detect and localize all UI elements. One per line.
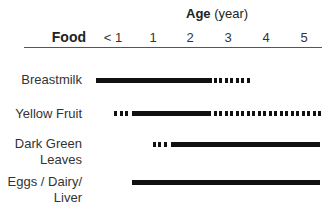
- label-line1: Eggs / Dairy/: [0, 174, 82, 190]
- row-label-yellow-fruit: Yellow Fruit: [0, 106, 82, 122]
- tick-3: 3: [224, 30, 231, 45]
- dark-green-dotted-start: [153, 142, 167, 147]
- label-line2: Leaves: [0, 152, 82, 168]
- tick-5: 5: [300, 30, 307, 45]
- yellow-fruit-dotted-start: [114, 111, 128, 116]
- dark-green-solid-bar: [171, 142, 320, 147]
- axis-title: Age (year): [186, 6, 248, 21]
- yellow-fruit-dotted-end: [214, 111, 321, 116]
- label-line1: Dark Green: [0, 136, 82, 152]
- tick-1: 1: [149, 30, 156, 45]
- row-label-dark-green-leaves: Dark Green Leaves: [0, 136, 82, 168]
- breastmilk-solid-bar: [96, 78, 212, 83]
- label-line2: Liver: [0, 190, 82, 206]
- yellow-fruit-solid-bar: [132, 111, 211, 116]
- tick-4: 4: [262, 30, 269, 45]
- tick-2: 2: [186, 30, 193, 45]
- tick-lt1: < 1: [104, 30, 122, 45]
- food-column-header: Food: [32, 29, 86, 45]
- axis-title-bold: Age: [186, 6, 211, 21]
- row-label-eggs-dairy-liver: Eggs / Dairy/ Liver: [0, 174, 82, 206]
- breastmilk-dotted-bar: [214, 78, 251, 83]
- axis-title-unit: (year): [214, 6, 248, 21]
- row-label-breastmilk: Breastmilk: [0, 72, 82, 88]
- eggs-solid-bar: [132, 180, 320, 185]
- header-rule: [24, 47, 322, 48]
